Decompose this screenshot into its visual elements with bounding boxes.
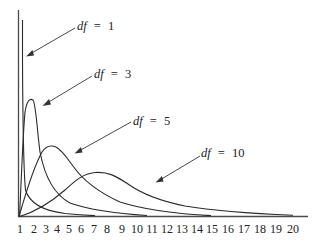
svg-text:df = 3: df = 3 [94, 67, 131, 81]
annotation-df-10: df = 10 [156, 146, 245, 183]
svg-text:df = 1: df = 1 [77, 19, 114, 33]
x-tick-label: 7 [91, 222, 97, 236]
x-tick-label: 6 [78, 222, 84, 236]
x-tick-label: 2 [31, 222, 37, 236]
x-tick-label: 4 [54, 222, 60, 236]
x-tick-label: 20 [287, 222, 299, 236]
x-tick-label: 16 [222, 222, 234, 236]
x-tick-label: 15 [206, 222, 218, 236]
x-tick-label: 19 [270, 222, 282, 236]
x-tick-label: 12 [161, 222, 173, 236]
x-tick-label: 9 [119, 222, 125, 236]
x-tick-label: 18 [254, 222, 266, 236]
annotation-df-5: df = 5 [75, 114, 171, 154]
curve-df-1 [23, 20, 96, 216]
x-tick-label: 11 [146, 222, 158, 236]
svg-text:df = 5: df = 5 [133, 114, 170, 128]
x-tick-label: 5 [66, 222, 72, 236]
chi-square-distribution-chart: df = 1 df = 3 df = 5 df = 10 1 [0, 0, 322, 243]
x-tick-label: 8 [104, 222, 110, 236]
annotation-df-3: df = 3 [43, 67, 132, 106]
x-tick-label: 17 [238, 222, 250, 236]
x-tick-label: 3 [43, 222, 49, 236]
annotation-df-1: df = 1 [26, 19, 114, 57]
x-tick-label: 1 [17, 222, 23, 236]
x-tick-labels: 1 2 3 4 5 6 7 8 9 10 11 12 13 14 15 16 1… [17, 222, 299, 236]
x-tick-label: 10 [131, 222, 143, 236]
x-tick-label: 14 [191, 222, 203, 236]
svg-text:df = 10: df = 10 [201, 146, 245, 160]
x-tick-label: 13 [176, 222, 188, 236]
